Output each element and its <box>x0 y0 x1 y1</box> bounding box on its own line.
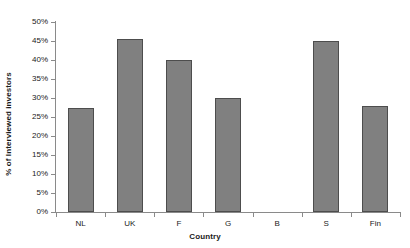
y-axis-tick-label: 45% <box>8 37 48 45</box>
y-axis-tick <box>51 212 55 213</box>
y-axis-tick-label: 10% <box>8 170 48 178</box>
y-axis-tick <box>51 136 55 137</box>
y-axis-tick-label: 35% <box>8 75 48 83</box>
x-axis-tick <box>105 213 106 217</box>
y-axis-tick <box>51 98 55 99</box>
x-axis-tick-label: Fin <box>345 220 405 228</box>
y-axis-tick-label: 30% <box>8 94 48 102</box>
x-axis-tick <box>203 213 204 217</box>
y-axis-tick <box>51 174 55 175</box>
y-axis-tick-label: 25% <box>8 113 48 121</box>
y-axis-tick <box>51 193 55 194</box>
x-axis-tick <box>302 213 303 217</box>
bar-s <box>313 41 339 212</box>
y-axis-tick <box>51 79 55 80</box>
x-axis-line <box>55 212 401 213</box>
plot-area <box>56 22 400 212</box>
bar-chart: % of Interviewed investors 0%5%10%15%20%… <box>0 0 410 248</box>
y-axis-tick-label: 50% <box>8 18 48 26</box>
y-axis-tick-label: 20% <box>8 132 48 140</box>
bar-uk <box>117 39 143 212</box>
y-axis-tick <box>51 41 55 42</box>
y-axis-tick <box>51 117 55 118</box>
x-axis-tick <box>400 213 401 217</box>
x-axis-title: Country <box>0 232 410 241</box>
y-axis-tick-label: 15% <box>8 151 48 159</box>
x-axis-tick <box>351 213 352 217</box>
x-axis-tick <box>253 213 254 217</box>
y-axis-tick <box>51 155 55 156</box>
y-axis-tick-label: 5% <box>8 189 48 197</box>
bar-g <box>215 98 241 212</box>
y-axis-tick-label: 40% <box>8 56 48 64</box>
x-axis-tick <box>154 213 155 217</box>
bar-nl <box>68 108 94 213</box>
y-axis-tick <box>51 22 55 23</box>
y-axis-tick <box>51 60 55 61</box>
bar-f <box>166 60 192 212</box>
y-axis-tick-label: 0% <box>8 208 48 216</box>
bar-fin <box>362 106 388 212</box>
x-axis-tick <box>56 213 57 217</box>
